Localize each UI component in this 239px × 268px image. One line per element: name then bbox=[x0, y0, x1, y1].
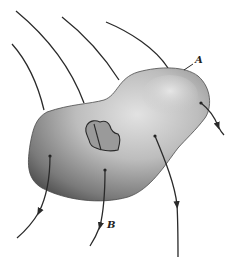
streamline-down-3-tail bbox=[177, 205, 178, 257]
streamline-4 bbox=[106, 22, 168, 68]
streamline-down-1-tail bbox=[17, 212, 39, 238]
streamline-3 bbox=[62, 17, 119, 80]
streamline-1 bbox=[12, 44, 44, 110]
body-highlight bbox=[142, 75, 198, 115]
streamline-down-4-tail bbox=[218, 126, 224, 135]
streamline-down-2-tail bbox=[90, 226, 100, 246]
label-a: A bbox=[194, 54, 203, 65]
streamline-2 bbox=[16, 11, 84, 103]
streamline-diagram: A B bbox=[0, 0, 239, 268]
label-b: B bbox=[106, 219, 115, 230]
label-a-pointer bbox=[184, 64, 193, 70]
